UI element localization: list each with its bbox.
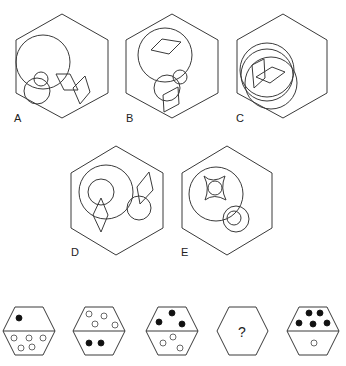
sequence-item-3 (146, 307, 198, 355)
sequence-item-2 (73, 307, 125, 355)
question-mark: ? (238, 324, 246, 340)
option-c[interactable]: C (236, 14, 327, 124)
inner-circle (88, 179, 114, 205)
sequence-item-1 (3, 307, 55, 355)
filled-dot (86, 340, 92, 346)
filled-dot (310, 321, 316, 327)
medium-circle (24, 78, 50, 104)
empty-dot (86, 311, 92, 317)
empty-dot (112, 322, 118, 328)
empty-dot (92, 321, 98, 327)
filled-dot (16, 315, 22, 321)
rhombus-shape (137, 172, 153, 204)
large-circle (16, 35, 70, 89)
filled-dot (98, 340, 104, 346)
hexagon-outline (237, 14, 327, 118)
rhombus-shape (56, 74, 78, 90)
rhombus-shape (151, 39, 181, 54)
sequence-item-4-unknown: ? (217, 307, 268, 355)
option-label: D (71, 246, 79, 258)
filled-dot (156, 319, 162, 325)
large-circle (138, 28, 192, 82)
empty-dot (18, 345, 24, 351)
option-label: C (236, 112, 244, 124)
empty-dot (101, 313, 107, 319)
filled-dot (306, 310, 312, 316)
sequence-item-5 (287, 307, 339, 355)
empty-dot (170, 334, 176, 340)
filled-dot (317, 310, 323, 316)
empty-dot (26, 335, 32, 341)
option-label: E (181, 246, 188, 258)
empty-dot (11, 335, 17, 341)
circle-2 (241, 49, 293, 101)
rhombus-shape (163, 87, 179, 112)
large-circle (189, 167, 243, 221)
four-point-star-shape (204, 176, 226, 200)
hexagon-outline (71, 146, 163, 255)
empty-dot (160, 340, 166, 346)
filled-dot (179, 321, 185, 327)
filled-dot (169, 310, 175, 316)
option-a[interactable]: A (14, 14, 108, 124)
empty-dot (29, 344, 35, 350)
filled-dot (324, 320, 330, 326)
hexagon-outline (182, 146, 272, 255)
inner-small-circle-star (208, 181, 222, 195)
option-d[interactable]: D (71, 146, 163, 258)
option-label: A (14, 112, 22, 124)
rhombus-shape (256, 67, 285, 83)
option-b[interactable]: B (126, 14, 218, 124)
empty-dot (40, 335, 46, 341)
option-label: B (126, 112, 133, 124)
empty-dot (177, 345, 183, 351)
filled-dot (296, 320, 302, 326)
empty-dot (311, 340, 317, 346)
option-e[interactable]: E (181, 146, 272, 258)
